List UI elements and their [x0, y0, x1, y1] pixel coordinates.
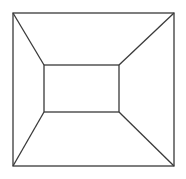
perspective-diagram — [0, 0, 186, 179]
diagonal-bottom-right — [119, 112, 174, 166]
diagonal-top-left — [13, 13, 44, 65]
inner-rectangle — [44, 65, 119, 112]
diagonal-bottom-left — [13, 112, 44, 166]
diagonal-top-right — [119, 13, 174, 65]
